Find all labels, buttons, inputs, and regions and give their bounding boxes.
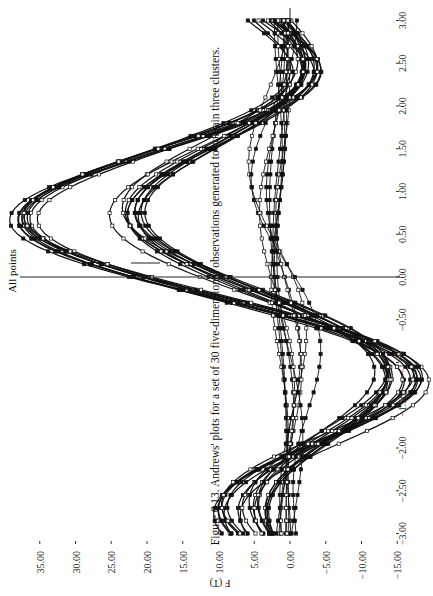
data-marker (297, 288, 300, 291)
data-marker (47, 250, 50, 253)
data-marker (303, 45, 306, 48)
data-marker (319, 340, 322, 343)
data-marker (286, 32, 289, 35)
data-marker (122, 199, 125, 202)
data-marker (252, 19, 255, 22)
data-marker (303, 314, 306, 317)
data-marker (253, 506, 256, 509)
data-marker (276, 211, 279, 214)
data-marker (260, 532, 263, 535)
data-marker (254, 532, 257, 535)
data-marker (312, 391, 315, 394)
data-marker (290, 532, 293, 535)
data-marker (272, 455, 275, 458)
data-marker (157, 147, 160, 150)
data-marker (254, 519, 257, 522)
data-marker (292, 493, 295, 496)
data-marker (272, 468, 275, 471)
data-marker (273, 45, 276, 48)
data-marker (292, 468, 295, 471)
data-marker (283, 83, 286, 86)
data-marker (290, 429, 293, 432)
figure-caption: Figure 6.13. Andrews' plots for a set of… (209, 6, 221, 586)
data-marker (402, 391, 405, 394)
data-marker (280, 263, 283, 266)
data-marker (364, 404, 367, 407)
data-marker (280, 134, 283, 137)
t-tick-label: −1.00 (397, 351, 408, 374)
data-marker (285, 70, 288, 73)
data-marker (293, 378, 296, 381)
data-marker (317, 327, 320, 330)
data-marker (185, 263, 188, 266)
data-marker (89, 173, 92, 176)
data-marker (380, 365, 383, 368)
data-marker (305, 327, 308, 330)
data-marker (298, 340, 301, 343)
data-marker (271, 96, 274, 99)
data-marker (31, 199, 34, 202)
data-marker (384, 404, 387, 407)
data-marker (282, 327, 285, 330)
data-marker (320, 70, 323, 73)
data-marker (18, 211, 21, 214)
data-marker (301, 429, 304, 432)
data-marker (266, 32, 269, 35)
data-marker (285, 340, 288, 343)
f-tick-label: −15.00 (392, 551, 403, 579)
t-tick-label: 2.50 (397, 55, 408, 73)
data-marker (280, 122, 283, 125)
data-marker (337, 442, 340, 445)
data-marker (285, 109, 288, 112)
data-marker (41, 237, 44, 240)
data-marker (250, 186, 253, 189)
data-marker (281, 173, 284, 176)
data-marker (121, 211, 124, 214)
data-marker (205, 147, 208, 150)
data-marker (258, 211, 261, 214)
data-marker (294, 506, 297, 509)
data-marker (52, 186, 55, 189)
data-marker (306, 70, 309, 73)
data-marker (310, 314, 313, 317)
data-marker (414, 365, 417, 368)
data-marker (69, 250, 72, 253)
data-marker (178, 288, 181, 291)
f-tick-label: 25.00 (106, 551, 117, 574)
t-axis-ticks: −3.00−2.50−2.00−1.50−1.00−0.500.000.501.… (396, 12, 408, 545)
data-marker (236, 481, 239, 484)
data-marker (274, 237, 277, 240)
data-marker (324, 314, 327, 317)
data-marker (297, 442, 300, 445)
data-marker (389, 378, 392, 381)
data-marker (168, 147, 171, 150)
data-marker (37, 211, 40, 214)
data-marker (136, 199, 139, 202)
data-marker (262, 173, 265, 176)
data-marker (99, 263, 102, 266)
data-marker (293, 45, 296, 48)
data-marker (254, 481, 257, 484)
t-tick-label: −3.00 (397, 522, 408, 545)
data-marker (315, 378, 318, 381)
data-marker (280, 532, 283, 535)
data-marker (296, 327, 299, 330)
data-marker (263, 250, 266, 253)
data-marker (305, 340, 308, 343)
data-marker (367, 352, 370, 355)
data-marker (285, 122, 288, 125)
data-marker (300, 83, 303, 86)
data-marker (370, 352, 373, 355)
data-marker (413, 391, 416, 394)
data-marker (246, 532, 249, 535)
data-marker (257, 493, 260, 496)
data-marker (290, 57, 293, 60)
data-marker (192, 263, 195, 266)
f-tick-label: 5.00 (249, 551, 260, 569)
data-marker (155, 173, 158, 176)
data-marker (250, 109, 253, 112)
data-marker (304, 455, 307, 458)
data-marker (384, 378, 387, 381)
data-marker (268, 211, 271, 214)
data-marker (272, 314, 275, 317)
